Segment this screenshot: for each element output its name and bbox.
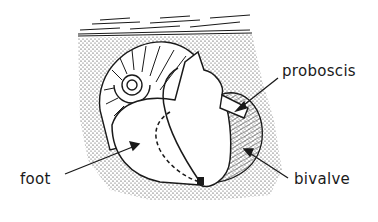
label-proboscis: proboscis <box>282 62 356 80</box>
label-foot: foot <box>20 170 51 188</box>
drill-hole <box>197 177 204 185</box>
label-bivalve: bivalve <box>294 170 350 188</box>
sediment-surface-lines <box>78 15 252 36</box>
diagram-illustration <box>0 0 378 222</box>
